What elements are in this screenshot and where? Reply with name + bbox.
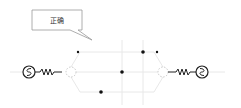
- right-ac-source-icon[interactable]: [196, 66, 208, 78]
- left-resistor-icon[interactable]: [35, 69, 62, 75]
- dot-icon[interactable]: [141, 50, 145, 54]
- dot-icon[interactable]: [99, 90, 103, 94]
- right-resistor-icon[interactable]: [168, 69, 196, 75]
- dot-icon[interactable]: [77, 51, 79, 53]
- dot-icon[interactable]: [120, 70, 124, 74]
- dot-icon[interactable]: [156, 51, 158, 53]
- left-ac-source-icon[interactable]: [23, 66, 35, 78]
- right-node-icon[interactable]: [158, 67, 168, 77]
- left-node-icon[interactable]: [66, 67, 76, 77]
- callout-bubble: [32, 10, 92, 40]
- circuit-diagram: [0, 0, 241, 108]
